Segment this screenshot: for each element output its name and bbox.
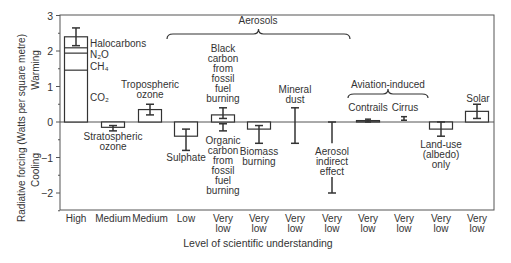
label-co2: CO₂ <box>90 92 109 103</box>
label-aerosol-indirect-effect: effect <box>320 166 344 177</box>
bar-greenhouse-gases <box>65 37 88 122</box>
x-tick-label: low <box>360 223 376 234</box>
label-ch4: CH₄ <box>90 61 109 72</box>
y-tick-label: 2 <box>47 45 53 57</box>
x-axis-labels: HighMediumMediumLowVerylowVerylowVerylow… <box>66 213 487 234</box>
x-tick-label: low <box>215 223 231 234</box>
y-tick-label: −1 <box>41 152 53 164</box>
x-tick-label: low <box>251 223 267 234</box>
y-axis-warming-label: Warming <box>30 50 41 90</box>
y-tick-label: −2 <box>41 187 53 199</box>
x-tick-label: low <box>287 223 303 234</box>
bars <box>65 28 489 193</box>
label-sulphate: Sulphate <box>166 152 206 163</box>
y-axis-cooling-label: Cooling <box>30 153 41 187</box>
x-axis-title: Level of scientific understanding <box>183 237 333 249</box>
label-black-carbon: burning <box>206 93 239 104</box>
aerosols-brace <box>167 29 350 39</box>
x-tick-label: High <box>66 213 87 224</box>
label-stratospheric-ozone: ozone <box>99 141 127 152</box>
label-cirrus: Cirrus <box>392 102 419 113</box>
label-n2o: N₂O <box>90 49 109 60</box>
x-tick-label: low <box>396 223 412 234</box>
x-tick-label: Low <box>177 213 196 224</box>
x-tick-label: Medium <box>132 213 168 224</box>
y-tick-label: 0 <box>47 116 53 128</box>
label-contrails: Contrails <box>348 102 387 113</box>
y-tick-label: 1 <box>47 81 53 93</box>
radiative-forcing-chart: −2−10123 HalocarbonsN₂OCH₄CO₂Stratospher… <box>0 0 511 263</box>
label-aerosols-group: Aerosols <box>239 15 278 26</box>
aviation-brace <box>348 89 428 98</box>
x-tick-label: low <box>469 223 485 234</box>
label-land-use: only <box>432 159 450 170</box>
y-axis: −2−10123 <box>41 10 60 211</box>
label-mineral-dust: dust <box>286 94 305 105</box>
label-organic-carbon: burning <box>206 185 239 196</box>
bar-labels: HalocarbonsN₂OCH₄CO₂StratosphericozoneTr… <box>84 15 491 196</box>
label-tropospheric-ozone: ozone <box>136 89 164 100</box>
y-axis-title: Radiative forcing (Watts per square metr… <box>16 34 27 222</box>
x-tick-label: low <box>433 223 449 234</box>
label-biomass-burning: burning <box>242 156 275 167</box>
y-tick-label: 3 <box>47 10 53 22</box>
label-halocarbons: Halocarbons <box>90 38 146 49</box>
x-tick-label: low <box>324 223 340 234</box>
label-solar: Solar <box>466 93 490 104</box>
x-tick-label: Medium <box>95 213 131 224</box>
label-aviation-induced-group: Aviation-induced <box>351 79 425 90</box>
